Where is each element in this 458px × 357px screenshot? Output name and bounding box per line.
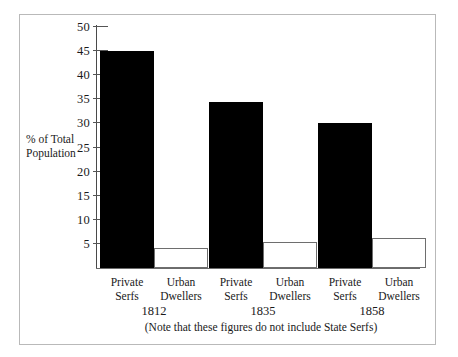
- bar-1812-urban-dwellers: [154, 248, 208, 268]
- x-axis-category-label: PrivateSerfs: [209, 276, 263, 303]
- y-axis-tick-label: 35: [62, 92, 90, 106]
- x-axis-year-label-1812: 1812: [100, 304, 208, 319]
- x-axis-line: [96, 268, 420, 269]
- y-axis-tick-label: 40: [62, 68, 90, 82]
- x-axis-category-label: UrbanDwellers: [263, 276, 317, 303]
- category-label-line-2: Serfs: [209, 290, 263, 304]
- y-axis-tick-label: 45: [62, 44, 90, 58]
- y-axis-tick-label: 30: [62, 116, 90, 130]
- x-axis-category-label: UrbanDwellers: [372, 276, 426, 303]
- y-axis-tick-label: 50: [62, 20, 90, 34]
- y-axis-tick-label: 10: [62, 213, 90, 227]
- y-axis-tick-label: 15: [62, 189, 90, 203]
- category-label-line-2: Dwellers: [154, 290, 208, 304]
- x-axis-category-label: PrivateSerfs: [318, 276, 372, 303]
- bar-1835-urban-dwellers: [263, 242, 317, 268]
- y-axis-tick-label: 20: [62, 165, 90, 179]
- x-axis-year-label-1858: 1858: [318, 304, 426, 319]
- bar-1858-private-serfs: [318, 123, 372, 268]
- x-axis-year-label-1835: 1835: [209, 304, 317, 319]
- bar-1835-private-serfs: [209, 102, 263, 268]
- category-label-line-1: Urban: [263, 276, 317, 290]
- x-axis-category-label: PrivateSerfs: [100, 276, 154, 303]
- category-label-line-2: Serfs: [318, 290, 372, 304]
- bar-1812-private-serfs: [100, 51, 154, 268]
- category-label-line-2: Dwellers: [372, 290, 426, 304]
- y-axis-tick-label: 25: [62, 141, 90, 155]
- category-label-line-2: Serfs: [100, 290, 154, 304]
- bar-1858-urban-dwellers: [372, 238, 426, 268]
- x-axis-category-label: UrbanDwellers: [154, 276, 208, 303]
- chart-note: (Note that these figures do not include …: [96, 320, 426, 334]
- category-label-line-1: Private: [318, 276, 372, 290]
- plot-area: [96, 22, 420, 268]
- category-label-line-1: Private: [100, 276, 154, 290]
- category-label-line-1: Urban: [372, 276, 426, 290]
- y-axis-tick-label: 5: [62, 237, 90, 251]
- category-label-line-1: Private: [209, 276, 263, 290]
- category-label-line-2: Dwellers: [263, 290, 317, 304]
- category-label-line-1: Urban: [154, 276, 208, 290]
